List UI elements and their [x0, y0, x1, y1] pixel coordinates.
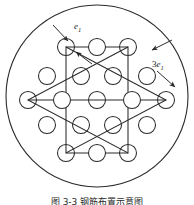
circle-row-2 — [39, 68, 156, 85]
dimension-label-3e1: 3e1 — [152, 60, 164, 71]
circle-row-top — [58, 39, 137, 56]
rebar-circle — [39, 117, 56, 134]
rebar-circle — [89, 145, 106, 162]
figure-container: e1 3e1 图 3-3 钢筋布置示意图 — [0, 0, 194, 205]
arrow-3e1-lower — [157, 71, 175, 87]
hexagram-rebar-diagram — [0, 0, 194, 205]
rebar-circle — [89, 39, 106, 56]
arrow-3e1-upper — [152, 40, 172, 50]
arrow-e1-upper-left — [53, 25, 68, 41]
rebar-circle — [124, 92, 141, 109]
circle-row-4 — [39, 117, 156, 134]
rebar-circle — [54, 92, 71, 109]
rebar-circle — [39, 68, 56, 85]
label-3e1-subscript: 1 — [161, 64, 164, 71]
rebar-circle — [139, 117, 156, 134]
figure-caption: 图 3-3 钢筋布置示意图 — [0, 197, 194, 205]
arrow-e1-lower-right — [76, 52, 92, 64]
label-e1-subscript: 1 — [78, 26, 81, 33]
rebar-circle — [73, 68, 90, 85]
rebar-circle — [120, 39, 137, 56]
rebar-circle — [58, 39, 75, 56]
rebar-circle — [105, 68, 122, 85]
dimension-label-e1: e1 — [74, 22, 81, 33]
